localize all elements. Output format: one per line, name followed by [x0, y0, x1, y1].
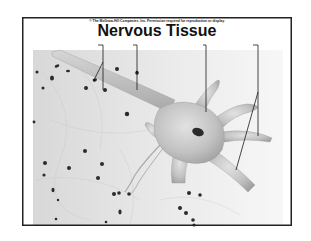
- neuron-illustration: [0, 0, 311, 241]
